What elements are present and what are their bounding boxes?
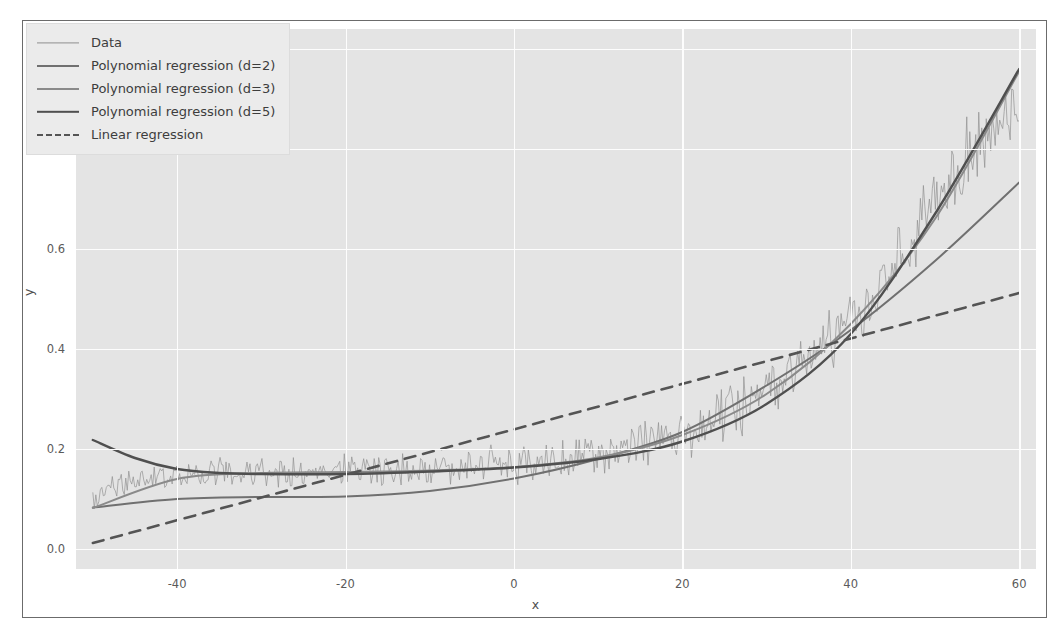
gridline-horizontal	[76, 349, 1036, 350]
gridline-vertical	[514, 29, 515, 569]
legend-item[interactable]: Polynomial regression (d=2)	[37, 54, 275, 77]
legend-item-label: Data	[91, 35, 122, 50]
legend-item[interactable]: Data	[37, 31, 275, 54]
x-tick-label: 60	[1012, 577, 1027, 591]
light-line-swatch	[37, 82, 79, 96]
legend-item[interactable]: Linear regression	[37, 123, 275, 146]
y-tick-label: 0.6	[23, 242, 65, 256]
gridline-horizontal	[76, 249, 1036, 250]
thin-line-swatch	[37, 36, 79, 50]
gridline-vertical	[346, 29, 347, 569]
series-linear-regression	[93, 293, 1019, 543]
legend-item-label: Polynomial regression (d=2)	[91, 58, 275, 73]
x-tick-label: 40	[843, 577, 858, 591]
legend-item[interactable]: Polynomial regression (d=5)	[37, 100, 275, 123]
dashed-line-swatch	[37, 128, 79, 142]
y-axis-label: y	[21, 289, 36, 296]
gridline-vertical	[1019, 29, 1020, 569]
y-tick-label: 0.2	[23, 442, 65, 456]
gridline-vertical	[851, 29, 852, 569]
y-tick-label: 0.0	[23, 542, 65, 556]
medium-line-swatch	[37, 59, 79, 73]
x-axis-label: x	[23, 597, 1048, 612]
dark-line-swatch	[37, 105, 79, 119]
legend-item-label: Polynomial regression (d=5)	[91, 104, 275, 119]
x-tick-label: 20	[675, 577, 690, 591]
x-tick-label: 0	[510, 577, 517, 591]
gridline-vertical	[682, 29, 683, 569]
series-polynomial-regression-d-2	[93, 183, 1019, 508]
x-tick-label: -20	[336, 577, 355, 591]
figure-canvas: 0.00.20.40.60.81.0 -40-200204060 x y Dat…	[22, 20, 1047, 618]
gridline-horizontal	[76, 449, 1036, 450]
x-tick-label: -40	[168, 577, 187, 591]
y-tick-label: 0.4	[23, 342, 65, 356]
legend-item[interactable]: Polynomial regression (d=3)	[37, 77, 275, 100]
legend-item-label: Polynomial regression (d=3)	[91, 81, 275, 96]
chart-legend: DataPolynomial regression (d=2)Polynomia…	[26, 23, 290, 155]
gridline-horizontal	[76, 549, 1036, 550]
legend-item-label: Linear regression	[91, 127, 203, 142]
